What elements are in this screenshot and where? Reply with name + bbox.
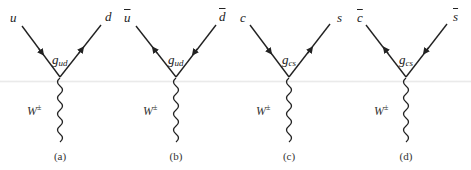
- caption-d: (d): [400, 151, 413, 162]
- boson-label: W±: [256, 104, 270, 117]
- coupling-label: gud: [52, 53, 68, 68]
- particle-label-left-antiparticle: c: [357, 11, 363, 24]
- caption-c: (c): [283, 151, 295, 162]
- caption-b: (b): [170, 151, 183, 162]
- w-boson-wavy-line: [404, 78, 409, 142]
- arrow-icon: [79, 49, 82, 53]
- w-boson-wavy-line: [287, 78, 292, 142]
- particle-label-left: u: [10, 11, 17, 24]
- arrow-icon: [39, 49, 42, 53]
- particle-label-right-antiparticle: s: [453, 10, 458, 23]
- particle-label-left: c: [240, 11, 246, 24]
- coupling-label: gud: [168, 53, 184, 68]
- coupling-label: gcs: [282, 53, 296, 68]
- particle-label-right: d: [105, 10, 112, 23]
- particle-label-right-antiparticle: d: [219, 10, 226, 23]
- w-boson-wavy-line: [174, 78, 179, 142]
- diagram-lines: [0, 0, 471, 170]
- boson-label: W±: [374, 104, 388, 117]
- particle-label-left-antiparticle: u: [124, 11, 131, 24]
- diagram-c: [250, 24, 330, 142]
- diagram-d: [366, 24, 447, 142]
- feynman-diagram-figure: u d gud W± (a) u d gud W± (b) c s gcs W±…: [0, 0, 471, 170]
- particle-label-right: s: [337, 11, 342, 24]
- boson-label: W±: [143, 104, 157, 117]
- diagram-a: [22, 25, 101, 142]
- w-boson-wavy-line: [58, 78, 63, 142]
- diagram-b: [136, 25, 216, 142]
- arrow-icon: [154, 49, 157, 53]
- caption-a: (a): [54, 151, 66, 162]
- boson-label: W±: [27, 104, 41, 117]
- coupling-label: gcs: [399, 53, 413, 68]
